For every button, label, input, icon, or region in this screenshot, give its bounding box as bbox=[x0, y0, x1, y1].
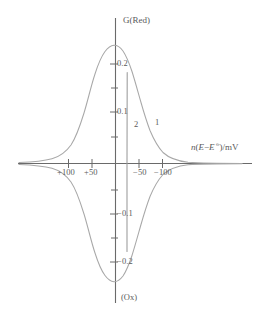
curve-label-2: 2 bbox=[134, 120, 138, 129]
x-axis-title: n(E−E⦵)/mV bbox=[191, 141, 239, 152]
curve-label-1: 1 bbox=[155, 118, 159, 127]
x-tick-label-minus-50: −50 bbox=[133, 168, 147, 177]
chart-plot-area bbox=[0, 0, 259, 321]
ox-label: (Ox) bbox=[121, 293, 137, 302]
x-axis-title-unit: /mV bbox=[223, 142, 239, 152]
chart-figure: G(Red) (Ox) n(E−E⦵)/mV +100 +50 −50 −100… bbox=[0, 0, 259, 321]
x-tick-label-minus-100: −100 bbox=[154, 168, 172, 177]
y-tick-label-minus-0-1: −0.1 bbox=[117, 209, 133, 218]
y-tick-label-minus-0-2: −0.2 bbox=[117, 257, 133, 266]
y-tick-label-0-2: 0.2 bbox=[117, 59, 128, 68]
x-tick-label-plus-100: +100 bbox=[57, 168, 75, 177]
y-axis-title: G(Red) bbox=[123, 16, 150, 25]
y-tick-label-0-1: 0.1 bbox=[117, 107, 128, 116]
x-tick-label-plus-50: +50 bbox=[84, 168, 98, 177]
